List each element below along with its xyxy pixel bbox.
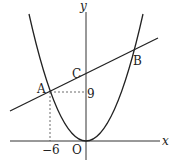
coordinate-diagram: y x O A B C 9 −6 [0, 0, 172, 161]
origin-label: O [72, 143, 82, 157]
point-c-label: C [72, 67, 81, 81]
point-a-label: A [36, 82, 46, 96]
point-b-label: B [133, 54, 142, 68]
x-axis-label: x [162, 134, 169, 148]
y-tick-9: 9 [87, 87, 95, 101]
y-axis-label: y [79, 0, 87, 13]
line-ab [10, 38, 158, 111]
x-tick-minus-6: −6 [42, 143, 60, 157]
